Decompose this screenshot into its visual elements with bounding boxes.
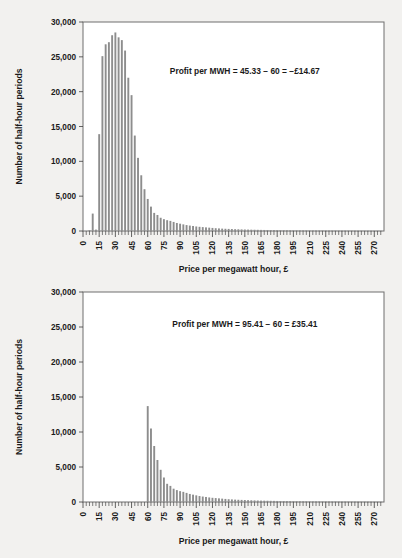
bar (121, 40, 123, 231)
bar (309, 230, 311, 231)
bar (114, 32, 116, 231)
bar (292, 501, 294, 502)
x-tick-label: 255 (354, 512, 363, 526)
bar (182, 492, 184, 502)
bar (189, 226, 191, 231)
x-tick-label: 255 (354, 241, 363, 255)
bar (153, 446, 155, 502)
bar (205, 227, 207, 231)
bar (173, 222, 175, 231)
bar (305, 501, 307, 502)
bar (318, 501, 320, 502)
y-tick-label: 0 (71, 227, 76, 236)
y-tick-label: 25,000 (51, 323, 76, 332)
bar (163, 478, 165, 503)
bar (299, 501, 301, 502)
bar (309, 501, 311, 502)
bar (267, 230, 269, 231)
bar (224, 229, 226, 231)
bar (101, 56, 103, 231)
bar (212, 498, 214, 502)
bar (160, 470, 162, 502)
x-tick-label: 135 (225, 512, 234, 526)
bar (302, 501, 304, 502)
y-tick-label: 30,000 (51, 18, 76, 27)
bar (296, 501, 298, 502)
bar (156, 215, 158, 231)
bar (186, 225, 188, 231)
x-tick-label: 15 (95, 241, 104, 251)
bar (299, 230, 301, 231)
bar (315, 501, 317, 502)
bar (241, 229, 243, 231)
bar (153, 213, 155, 231)
bar (237, 229, 239, 231)
bar (302, 230, 304, 231)
bar (218, 498, 220, 502)
bar (250, 230, 252, 231)
y-axis: 05,00010,00015,00020,00025,00030,000 (51, 18, 83, 236)
y-axis: 05,00010,00015,00020,00025,00030,000 (51, 288, 83, 507)
bar (276, 501, 278, 502)
x-axis-title: Price per megawatt hour, £ (179, 264, 289, 274)
bar (137, 158, 139, 231)
x-axis: 0153045607590105120135150165180195210225… (79, 502, 381, 526)
bar (166, 484, 168, 502)
x-tick-label: 45 (128, 241, 137, 251)
bar (224, 499, 226, 502)
bar (254, 500, 256, 502)
bar (273, 230, 275, 231)
bar (296, 230, 298, 231)
bar (147, 199, 149, 231)
bar (215, 498, 217, 502)
y-tick-label: 30,000 (51, 288, 76, 297)
bar (150, 207, 152, 231)
bar (176, 223, 178, 231)
x-tick-label: 150 (241, 241, 250, 255)
x-tick-label: 165 (257, 512, 266, 526)
bar (105, 44, 107, 231)
bar (283, 230, 285, 231)
x-tick-label: 210 (306, 512, 315, 526)
bar (205, 497, 207, 502)
x-tick-label: 60 (144, 241, 153, 251)
bar (289, 501, 291, 502)
bar (244, 500, 246, 502)
bar (228, 499, 230, 502)
x-tick-label: 195 (289, 512, 298, 526)
x-tick-label: 225 (322, 241, 331, 255)
bar (215, 228, 217, 231)
bar (270, 230, 272, 231)
bar (202, 497, 204, 502)
y-tick-label: 20,000 (51, 88, 76, 97)
chart-bottom: 05,00010,00015,00020,00025,00030,0000153… (0, 280, 402, 558)
bar (195, 226, 197, 231)
histogram-bottom: 05,00010,00015,00020,00025,00030,0000153… (0, 280, 402, 558)
x-tick-label: 195 (289, 241, 298, 255)
bar (257, 501, 259, 503)
y-tick-label: 5,000 (56, 192, 77, 201)
y-tick-label: 5,000 (56, 463, 77, 472)
bar (270, 501, 272, 502)
x-tick-label: 270 (370, 512, 379, 526)
bar (192, 495, 194, 502)
bar (140, 175, 142, 231)
x-tick-label: 30 (111, 241, 120, 251)
bar (169, 486, 171, 502)
bar (156, 460, 158, 502)
y-tick-label: 15,000 (51, 393, 76, 402)
y-tick-label: 20,000 (51, 358, 76, 367)
x-tick-label: 75 (160, 512, 169, 522)
figure-page: 05,00010,00015,00020,00025,00030,0000153… (0, 0, 402, 558)
bar (305, 230, 307, 231)
bar (95, 230, 97, 231)
bar (279, 230, 281, 231)
x-tick-label: 45 (128, 512, 137, 522)
bar (131, 95, 133, 231)
bar (276, 230, 278, 231)
x-axis: 0153045607590105120135150165180195210225… (79, 231, 381, 255)
bar (199, 496, 201, 502)
bar (260, 230, 262, 231)
bar (192, 226, 194, 231)
x-tick-label: 225 (322, 512, 331, 526)
